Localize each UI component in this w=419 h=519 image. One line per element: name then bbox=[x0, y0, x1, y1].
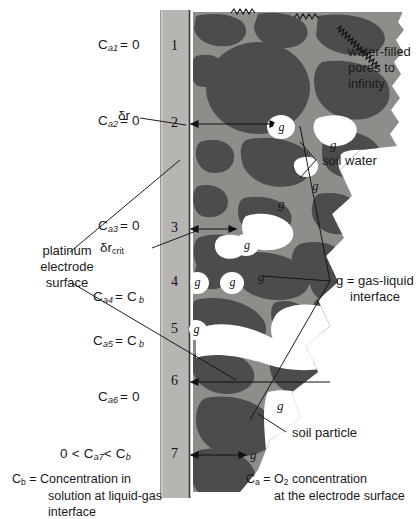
g-label-bubble-2: g bbox=[239, 237, 255, 253]
label-soil-particle: soil particle bbox=[292, 425, 357, 441]
g-label-right-5: g bbox=[277, 398, 284, 413]
g-label-right-6: g bbox=[250, 447, 257, 462]
g-label-right-2: g bbox=[312, 178, 319, 193]
label-ca6: Ca6= 0 bbox=[98, 389, 142, 406]
g-label-bubble-3: g bbox=[190, 275, 205, 290]
figure-container: Ca1= 0 Ca2= 0 Ca3= 0 Ca4= Cb Ca5= Cb Ca6… bbox=[0, 0, 419, 519]
platinum-line-1: platinum bbox=[8, 243, 126, 259]
electrode-marker-7: 7 bbox=[171, 446, 178, 462]
caption-cb-line-3: interface bbox=[12, 504, 162, 519]
water-pores-line-2: pores to bbox=[348, 60, 411, 76]
g-label-right-4: g bbox=[258, 269, 265, 284]
caption-ca-line-2: at the electrode surface bbox=[246, 488, 405, 504]
label-soil-water: soil water bbox=[322, 153, 377, 169]
platinum-electrode-strip bbox=[160, 10, 190, 498]
label-ca7: 0 < Ca7< Cb bbox=[60, 446, 131, 463]
electrode-marker-5: 5 bbox=[171, 321, 178, 337]
gas-liquid-line-1: g = gas-liquid bbox=[336, 273, 414, 289]
g-label-bubble-4: g bbox=[225, 275, 240, 290]
label-water-filled-pores: water-filled pores to infinity bbox=[348, 44, 411, 92]
g-label-right-1: g bbox=[330, 137, 337, 152]
electrode-marker-2: 2 bbox=[171, 115, 178, 131]
label-ca4: Ca4= Cb bbox=[93, 289, 144, 306]
g-label-right-3: g bbox=[278, 196, 285, 211]
water-pores-line-3: infinity bbox=[348, 76, 411, 92]
label-ca1: Ca1= 0 bbox=[98, 37, 142, 54]
electrode-marker-3: 3 bbox=[171, 220, 178, 236]
g-label-bubble-1: g bbox=[273, 119, 290, 136]
g-label-bubble-5: g bbox=[189, 322, 204, 337]
label-ca5: Ca5= Cb bbox=[93, 333, 144, 350]
caption-cb-line-2: solution at liquid-gas bbox=[12, 488, 162, 504]
electrode-marker-4: 4 bbox=[171, 274, 178, 290]
label-platinum-electrode-surface: platinum electrode surface bbox=[8, 243, 126, 291]
electrode-marker-1: 1 bbox=[171, 38, 178, 54]
caption-ca: Ca = O2 concentration at the electrode s… bbox=[246, 471, 405, 504]
platinum-line-2: electrode bbox=[8, 259, 126, 275]
platinum-line-3: surface bbox=[8, 275, 126, 291]
label-ca3: Ca3= 0 bbox=[98, 218, 142, 235]
caption-cb: Cb = Concentration in solution at liquid… bbox=[12, 471, 162, 519]
label-gas-liquid-interface: g = gas-liquid interface bbox=[336, 273, 414, 305]
electrode-marker-6: 6 bbox=[171, 373, 178, 389]
water-pores-line-1: water-filled bbox=[348, 44, 411, 60]
label-delta-r: δr bbox=[118, 108, 130, 124]
gas-liquid-line-2: interface bbox=[336, 289, 414, 305]
